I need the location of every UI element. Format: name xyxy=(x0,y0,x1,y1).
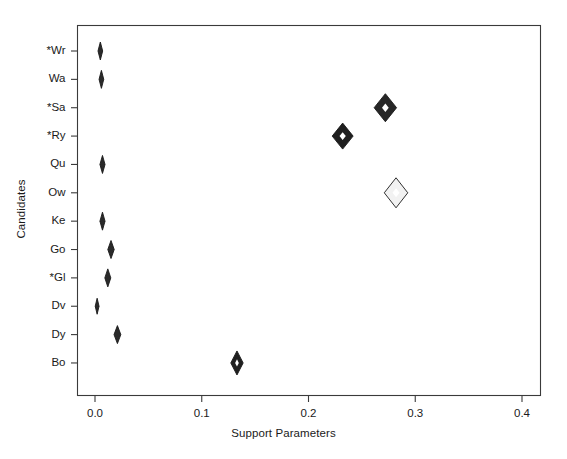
data-point-marker xyxy=(231,351,243,375)
data-point-marker xyxy=(108,241,114,259)
data-point-marker xyxy=(98,42,103,60)
data-point-marker xyxy=(332,123,353,149)
x-axis-title: Support Parameters xyxy=(0,427,567,439)
plot-frame xyxy=(78,26,541,396)
y-axis-tick-label: *Wr xyxy=(22,44,66,56)
x-axis-tick-label: 0.1 xyxy=(180,407,224,419)
data-point-marker xyxy=(384,178,407,208)
y-axis-tick-label: Wa xyxy=(22,72,66,84)
data-point-marker xyxy=(114,326,121,344)
y-axis-tick-label: Qu xyxy=(22,157,66,169)
x-axis-tick-label: 0.0 xyxy=(73,407,117,419)
plot-canvas xyxy=(0,0,567,459)
x-axis-tick-label: 0.4 xyxy=(500,407,544,419)
y-axis-tick-label: Ke xyxy=(22,214,66,226)
y-axis-tick-label: Ow xyxy=(22,186,66,198)
y-axis-tick-label: *Gl xyxy=(22,271,66,283)
x-axis-tick-label: 0.3 xyxy=(393,407,437,419)
y-axis-tick-label: Dv xyxy=(22,299,66,311)
data-point-marker xyxy=(99,70,104,88)
y-axis-tick-label: *Ry xyxy=(22,129,66,141)
y-axis-tick-label: Dy xyxy=(22,328,66,340)
data-point-marker xyxy=(100,155,105,173)
data-point-marker xyxy=(105,269,111,287)
data-point-marker xyxy=(95,298,99,314)
support-parameters-scatter-chart: Support Parameters Candidates 0.00.10.20… xyxy=(0,0,567,459)
data-point-marker xyxy=(100,212,105,230)
data-point-marker xyxy=(374,94,396,122)
y-axis-tick-label: Bo xyxy=(22,356,66,368)
x-axis-tick-label: 0.2 xyxy=(287,407,331,419)
y-axis-tick-label: *Sa xyxy=(22,101,66,113)
y-axis-tick-label: Go xyxy=(22,243,66,255)
